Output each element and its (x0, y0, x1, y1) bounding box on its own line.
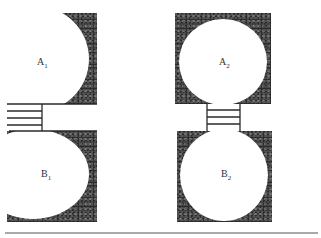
left-connector (7, 104, 97, 131)
connectors-layer (0, 0, 321, 238)
right-connector (207, 104, 240, 131)
